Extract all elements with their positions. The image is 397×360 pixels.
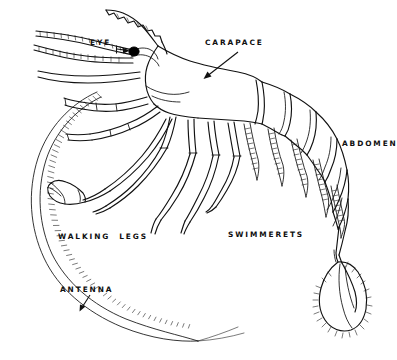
label-carapace: CARAPACE (205, 38, 264, 47)
carapace-group (131, 46, 264, 124)
antenna-group (31, 92, 244, 341)
antennules-group (34, 31, 140, 83)
swimmerets-group (244, 123, 345, 238)
carapace-arrowhead (204, 72, 212, 80)
label-swimmerets: SWIMMERETS (228, 230, 304, 239)
label-abdomen: ABDOMEN (342, 139, 397, 148)
carapace-leader-line (206, 52, 238, 77)
label-walking-legs: WALKING LEGS (58, 232, 148, 241)
label-antenna: ANTENNA (60, 285, 113, 294)
walking-legs-group (48, 97, 241, 234)
leader-lines-group (80, 46, 239, 312)
tail-fan-setae (313, 262, 372, 338)
shrimp-diagram-canvas: EYE CARAPACE ABDOMEN WALKING LEGS SWIMME… (0, 0, 397, 360)
eye-group (129, 47, 139, 56)
label-eye: EYE (90, 38, 111, 47)
tail-fan-group (313, 262, 372, 338)
shrimp-anatomy-figure: EYE CARAPACE ABDOMEN WALKING LEGS SWIMME… (0, 0, 397, 360)
